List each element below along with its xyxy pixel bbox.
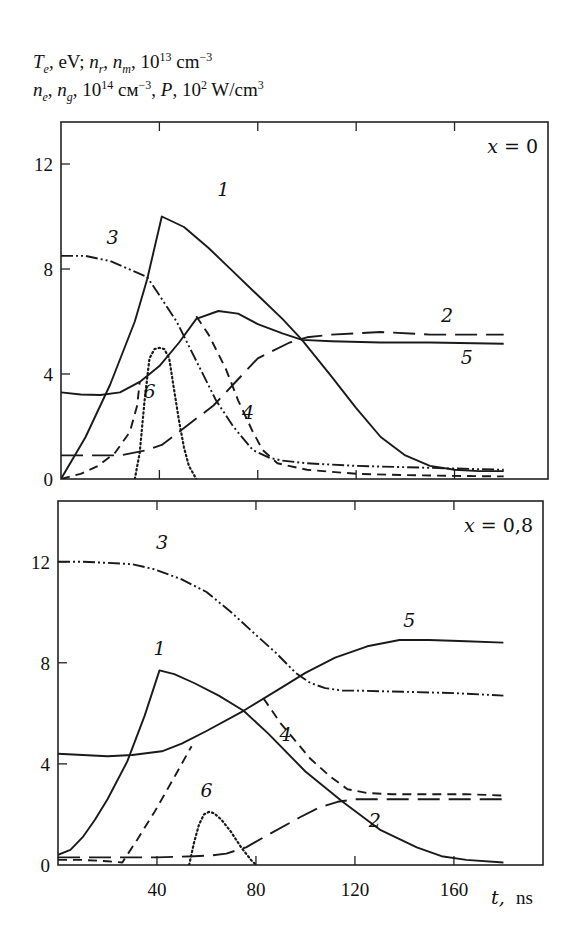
series-6-line [189,812,256,865]
series-3-line [61,256,504,470]
series-3-label: 3 [107,226,119,248]
panel-x-0-8: 408012016004812x = 0,8123456 [31,501,543,900]
series-6-label: 6 [200,779,212,801]
figure-canvas: 04812x = 0123456 408012016004812x = 0,81… [0,0,579,933]
series-2-line [58,799,503,857]
plot-frame [58,501,543,865]
x-axis-title: t, ns [491,886,533,908]
series-6-label: 6 [143,380,155,402]
x-tick-label: 40 [147,879,166,900]
x-axis-var: t, [491,886,505,908]
series-2-label: 2 [368,809,381,831]
y-tick-label: 12 [31,552,50,573]
series-3-label: 3 [156,531,168,553]
panel-title: x = 0 [487,135,538,157]
y-tick-label: 12 [34,154,53,175]
y-tick-label: 4 [44,364,54,385]
series-1-line [61,217,504,480]
y-tick-label: 0 [41,855,51,876]
series-5-line [61,311,504,395]
y-tick-label: 4 [41,754,51,775]
x-axis-unit: ns [516,887,533,908]
series-5-label: 5 [461,346,473,368]
x-tick-label: 80 [246,879,265,900]
series-6-line [135,348,197,479]
x-tick-label: 160 [440,879,469,900]
x-tick-label: 120 [341,879,370,900]
series-4-label: 4 [279,723,292,745]
series-3-line [58,562,503,696]
series-1-line [58,670,503,862]
y-tick-label: 0 [44,469,54,490]
series-4-label: 4 [241,401,254,423]
series-2-label: 2 [440,304,453,326]
plot-frame [61,122,548,479]
y-tick-label: 8 [41,653,51,674]
series-1-label: 1 [153,637,165,659]
panel-title: x = 0,8 [464,514,533,536]
panel-x-0: 04812x = 0123456 [34,122,548,490]
series-5-label: 5 [403,609,415,631]
series-1-label: 1 [217,178,229,200]
y-tick-label: 8 [44,259,54,280]
